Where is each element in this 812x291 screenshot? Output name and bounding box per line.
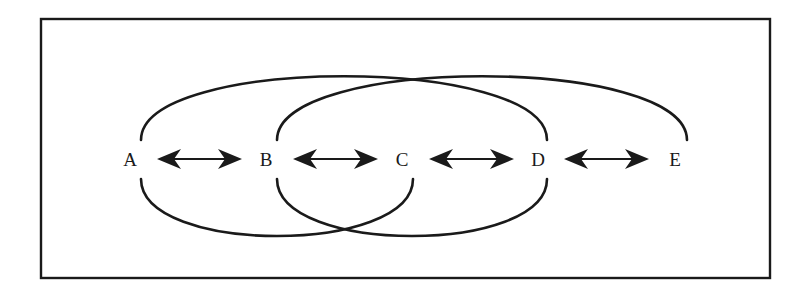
node-e: E: [669, 149, 681, 170]
node-d: D: [531, 149, 545, 170]
arrow-d-e: [564, 149, 649, 169]
arrow-a-b: [157, 149, 242, 169]
arrow-c-d: [429, 149, 514, 169]
node-c: C: [396, 149, 409, 170]
node-a: A: [123, 149, 137, 170]
top-arc-b-e: [277, 76, 687, 140]
arrow-b-c: [293, 149, 378, 169]
node-b: B: [260, 149, 273, 170]
top-arc-a-d: [141, 76, 547, 140]
linkage-diagram: A B C D E: [0, 0, 812, 291]
